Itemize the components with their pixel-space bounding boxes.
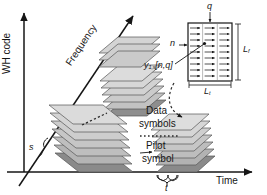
chip-detail-block	[175, 12, 241, 88]
wh-code-axis-label: WH code	[2, 33, 12, 74]
spreading-index-label: s	[29, 143, 34, 152]
received-signal-label: y1,s[n,q]	[144, 61, 173, 71]
n-index-label: n	[170, 39, 175, 48]
lf-subscript: f	[248, 48, 249, 54]
q-index-label: q	[207, 2, 212, 11]
lt-subscript: t	[209, 90, 210, 96]
pilot-symbol-label-line2: symbol	[142, 154, 174, 164]
pilot-symbol-label-line1: Pilot	[146, 141, 165, 151]
data-symbols-label-line1: Data	[146, 106, 167, 116]
signal-leader-dot	[203, 42, 206, 45]
magnify-callout-curve	[169, 83, 182, 117]
data-symbols-label-line2: symbols	[139, 119, 176, 129]
signal-index: [n,q]	[155, 60, 173, 70]
lf-dimension	[235, 24, 241, 80]
lt-dimension-label: Lt	[204, 87, 210, 97]
time-axis-label: Time	[216, 176, 238, 186]
lf-dimension-label: Lf	[243, 45, 249, 55]
slot-duration-label: t	[165, 184, 168, 193]
figure-canvas: WH code Frequency Time s t Data symbols …	[0, 0, 267, 195]
diagram-vector-layer	[0, 0, 267, 195]
